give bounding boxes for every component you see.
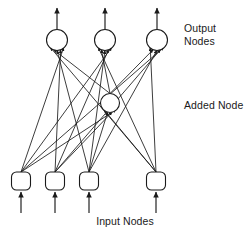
input-node-3 [80, 172, 99, 190]
edge-in3-to-out2 [89, 50, 105, 172]
edge-add1-to-out3 [110, 49, 153, 93]
output-node-2 [95, 30, 116, 51]
label-output-nodes: Output Nodes [184, 22, 216, 47]
output-node-1 [47, 30, 68, 51]
edge-in3-to-out1 [57, 50, 89, 172]
edge-add1-to-out1 [53, 49, 110, 93]
edge-in2-to-out2 [55, 49, 109, 172]
edge-in4-to-add1 [104, 110, 156, 172]
edge-in2-to-out1 [55, 49, 61, 172]
added-node-1 [101, 94, 120, 113]
output-node-3 [147, 30, 168, 51]
input-node-2 [46, 172, 65, 190]
edge-in2-to-add1 [55, 112, 112, 172]
neural-network-diagram: Output Nodes Added Node Input Nodes [0, 0, 248, 237]
label-input-nodes: Input Nodes [80, 215, 170, 228]
input-node-1 [12, 172, 31, 190]
edge-in1-to-add1 [21, 110, 116, 172]
input-node-4 [147, 172, 166, 190]
label-added-node: Added Node [184, 99, 243, 112]
edge-in4-to-out3 [150, 47, 156, 172]
edge-group [21, 47, 164, 172]
edge-in3-to-out3 [89, 50, 157, 172]
